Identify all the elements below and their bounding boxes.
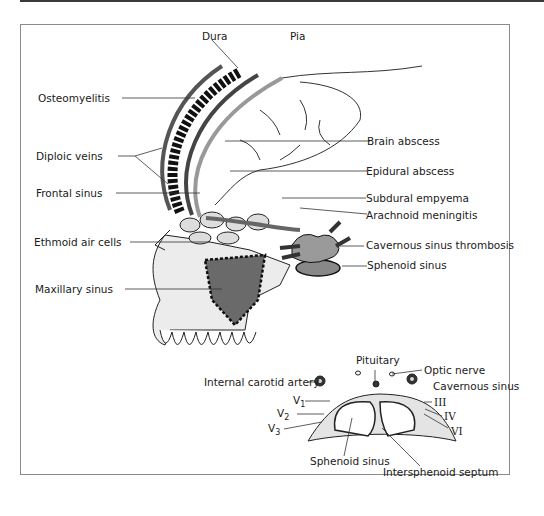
label-optic-nerve: Optic nerve [424, 364, 485, 376]
label-cavernous-sinus: Cavernous sinus [433, 380, 519, 392]
label-intersphenoid-septum: Intersphenoid septum [383, 466, 499, 478]
label-sphenoid-sinus: Sphenoid sinus [367, 259, 447, 271]
label-pituitary: Pituitary [356, 354, 400, 366]
skull-drawing [153, 212, 350, 345]
label-ethmoid-air-cells: Ethmoid air cells [34, 236, 122, 248]
label-cavernous-sinus-thrombosis: Cavernous sinus thrombosis [366, 239, 514, 251]
label-v2: V2 [277, 407, 289, 421]
label-internal-carotid-artery: Internal carotid artery [204, 376, 319, 388]
label-arachnoid-meningitis: Arachnoid meningitis [366, 209, 477, 221]
label-osteomyelitis: Osteomyelitis [38, 92, 110, 104]
cranial-layers [162, 66, 300, 230]
label-v3: V3 [268, 422, 280, 436]
label-cn-iv: IV [444, 410, 456, 422]
label-epidural-abscess: Epidural abscess [366, 165, 454, 177]
label-maxillary-sinus: Maxillary sinus [35, 283, 113, 295]
label-pia: Pia [290, 30, 305, 42]
label-cn-vi: VI [451, 425, 463, 437]
anatomy-illustration [0, 0, 544, 516]
label-frontal-sinus: Frontal sinus [36, 187, 102, 199]
label-inset-sphenoid-sinus: Sphenoid sinus [310, 455, 390, 467]
label-cn-iii: III [434, 396, 446, 408]
label-brain-abscess: Brain abscess [367, 135, 440, 147]
label-v1: V1 [293, 394, 305, 408]
label-subdural-empyema: Subdural empyema [366, 192, 469, 204]
label-diploic-veins: Diploic veins [36, 150, 103, 162]
label-dura: Dura [202, 30, 228, 42]
